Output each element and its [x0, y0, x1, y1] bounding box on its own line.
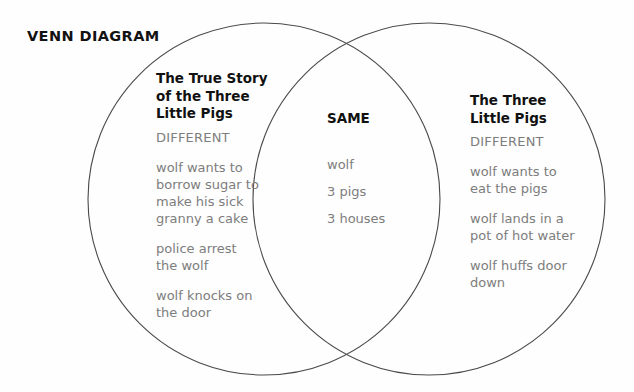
left-circle-content: The True Story of the Three Little Pigs …	[156, 70, 280, 321]
left-circle-subheading: DIFFERENT	[156, 129, 280, 146]
left-circle-item: police arrest the wolf	[156, 240, 280, 274]
right-circle-item: wolf wants to eat the pigs	[470, 163, 592, 197]
right-circle-subheading: DIFFERENT	[470, 133, 592, 150]
right-circle-item: wolf lands in a pot of hot water	[470, 210, 592, 244]
left-circle-item: wolf wants to borrow sugar to make his s…	[156, 159, 280, 227]
overlap-item: 3 houses	[327, 210, 423, 227]
overlap-content: SAME wolf 3 pigs 3 houses	[327, 110, 423, 227]
overlap-item: 3 pigs	[327, 183, 423, 200]
left-circle-item: wolf knocks on the door	[156, 287, 280, 321]
right-circle-content: The Three Little Pigs DIFFERENT wolf wan…	[470, 92, 592, 291]
overlap-item: wolf	[327, 156, 423, 173]
overlap-heading: SAME	[327, 110, 423, 128]
left-circle-heading: The True Story of the Three Little Pigs	[156, 70, 280, 123]
venn-diagram-canvas: VENN DIAGRAM The True Story of the Three…	[0, 0, 634, 392]
right-circle-heading: The Three Little Pigs	[470, 92, 592, 127]
right-circle-item: wolf huffs door down	[470, 257, 592, 291]
